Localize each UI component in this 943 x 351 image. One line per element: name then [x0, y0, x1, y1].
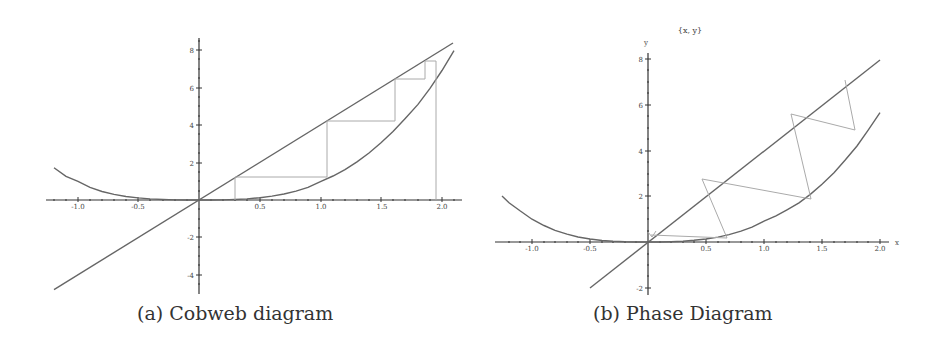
x-tick-label: -1.0 [71, 203, 85, 211]
x-tick-label: 0.5 [700, 245, 711, 253]
x-axis-label: x [895, 239, 899, 247]
line-y-equals-4x [590, 60, 880, 288]
phase-plot: {x, y} y x [495, 26, 899, 295]
y-tick-label: -4 [187, 272, 194, 280]
x-tick-label: 1.0 [315, 203, 326, 211]
y-tick-label: 4 [639, 148, 644, 156]
y-tick-label: 6 [190, 85, 195, 93]
y-tick-label: 8 [190, 47, 194, 55]
y-tick-label: 8 [639, 56, 643, 64]
y-tick-label: 4 [190, 122, 195, 130]
y-tick-label: 2 [639, 193, 643, 201]
y-tick-label: 2 [190, 160, 194, 168]
start-marker [648, 231, 656, 237]
x-tick-label: 2.0 [436, 203, 447, 211]
y-ticks [645, 59, 651, 288]
cubic-curve [54, 51, 454, 200]
y-axis-label: y [643, 39, 648, 47]
caption-a: (a) Cobweb diagram [137, 302, 333, 324]
x-tick-label: 1.5 [376, 203, 387, 211]
y-tick-label: 6 [639, 102, 644, 110]
x-tick-label: -0.5 [583, 245, 597, 253]
y-tick-label: -2 [187, 234, 194, 242]
x-tick-label: -0.5 [131, 203, 145, 211]
cubic-curve [502, 113, 880, 242]
figure-canvas: -1.0 -0.5 0.5 1.0 1.5 2.0 8 6 4 2 -2 -4 … [0, 0, 943, 351]
line-y-equals-4x [54, 43, 453, 290]
x-tick-label: 0.5 [254, 203, 265, 211]
x-tick-label: 1.5 [816, 245, 827, 253]
caption-b: (b) Phase Diagram [593, 302, 773, 324]
cobweb-path [235, 61, 436, 200]
x-tick-label: 2.0 [874, 245, 885, 253]
y-tick-label: -2 [636, 285, 643, 293]
cobweb-plot: -1.0 -0.5 0.5 1.0 1.5 2.0 8 6 4 2 -2 -4 [46, 38, 462, 294]
x-tick-label: -1.0 [525, 245, 539, 253]
x-tick-label: 1.0 [758, 245, 769, 253]
plot-title: {x, y} [678, 26, 702, 35]
